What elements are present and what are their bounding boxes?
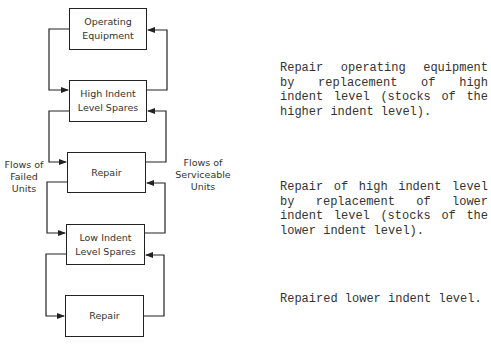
failed-flow-3 [47, 182, 67, 233]
box-label: Repair [89, 309, 119, 323]
repair-box-2: Repair [65, 295, 144, 337]
description-high-level: Repair operating equipment by replacemen… [280, 61, 488, 119]
serviceable-flow-1 [147, 30, 167, 90]
operating-equipment-box: Operating Equipment [69, 8, 147, 50]
description-repaired: Repaired lower indent level. [280, 292, 488, 307]
failed-flow-2 [49, 111, 69, 162]
serviceable-flow-4 [144, 255, 164, 316]
serviceable-flow-2 [146, 111, 166, 162]
low-indent-spares-box: Low Indent Level Spares [66, 224, 145, 265]
high-indent-spares-box: High Indent Level Spares [69, 80, 147, 122]
failed-flow-4 [46, 254, 66, 316]
box-label: Repair [91, 166, 121, 180]
description-low-level: Repair of high indent level by replaceme… [280, 180, 488, 238]
failed-flow-1 [49, 29, 69, 90]
box-label: Low Indent Level Spares [73, 231, 139, 259]
serviceable-units-label: Flows of Serviceable Units [171, 157, 235, 193]
repair-box-1: Repair [67, 152, 146, 193]
failed-units-label: Flows of Failed Units [2, 159, 46, 195]
box-label: High Indent Level Spares [75, 87, 141, 115]
box-label: Operating Equipment [78, 15, 138, 43]
serviceable-flow-3 [145, 183, 165, 233]
